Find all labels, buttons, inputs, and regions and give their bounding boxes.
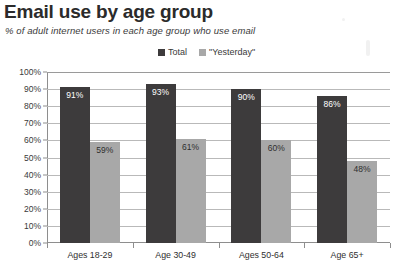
y-axis-tick-label: 100% [19, 67, 41, 77]
x-axis-tick-mark [47, 243, 48, 248]
scan-artifact [342, 18, 345, 21]
bar-total[interactable]: 93% [146, 84, 176, 243]
bar-value-label: 48% [347, 164, 377, 174]
x-axis-category-label: Age 65+ [304, 250, 390, 260]
bar-group: 90%60% [231, 72, 291, 243]
bar-value-label: 59% [90, 145, 120, 155]
bar-yesterday[interactable]: 48% [347, 161, 377, 243]
bar-groups: 91%59%93%61%90%60%86%48% [47, 72, 390, 243]
y-axis-tick-label: 40% [24, 170, 41, 180]
legend-label-yesterday: "Yesterday" [209, 47, 255, 57]
bar-value-label: 91% [60, 90, 90, 100]
y-axis-tick-label: 90% [24, 84, 41, 94]
legend-swatch-total-icon [158, 49, 165, 56]
chart-subtitle: % of adult internet users in each age gr… [5, 25, 255, 37]
y-axis-tick-label: 30% [24, 187, 41, 197]
x-axis-ticks [47, 243, 390, 249]
bar-group: 93%61% [146, 72, 206, 243]
chart-legend: Total "Yesterday" [158, 47, 255, 57]
bar-yesterday[interactable]: 59% [90, 142, 120, 243]
bar-yesterday[interactable]: 61% [176, 139, 206, 243]
bar-total[interactable]: 86% [317, 96, 347, 243]
legend-item-total: Total [158, 47, 187, 57]
bar-value-label: 61% [176, 142, 206, 152]
y-axis-tick-label: 80% [24, 101, 41, 111]
x-axis-labels: Ages 18-29Age 30-49Ages 50-64Age 65+ [47, 250, 390, 260]
y-axis-tick-label: 20% [24, 204, 41, 214]
chart-container: Email use by age group % of adult intern… [0, 0, 399, 272]
bar-value-label: 86% [317, 99, 347, 109]
scan-artifact [366, 40, 370, 56]
x-axis-tick-mark [219, 243, 220, 248]
plot-area: 100%90%80%70%60%50%40%30%20%10%0% 91%59%… [47, 72, 390, 243]
x-axis-tick-mark [304, 243, 305, 248]
y-axis-tick-label: 60% [24, 135, 41, 145]
y-axis-tick-label: 50% [24, 153, 41, 163]
bar-group: 86%48% [317, 72, 377, 243]
x-axis-tick-mark [133, 243, 134, 248]
legend-item-yesterday: "Yesterday" [199, 47, 255, 57]
chart-title: Email use by age group [4, 1, 213, 23]
y-axis-tick-label: 0% [29, 238, 41, 248]
bar-total[interactable]: 91% [60, 87, 90, 243]
y-axis-tick-label: 70% [24, 118, 41, 128]
legend-swatch-yesterday-icon [199, 49, 206, 56]
y-axis-tick-label: 10% [24, 221, 41, 231]
x-axis-category-label: Ages 50-64 [219, 250, 305, 260]
x-axis-category-label: Age 30-49 [133, 250, 219, 260]
bar-value-label: 93% [146, 87, 176, 97]
legend-label-total: Total [168, 47, 187, 57]
bar-total[interactable]: 90% [231, 89, 261, 243]
bar-yesterday[interactable]: 60% [261, 140, 291, 243]
bar-group: 91%59% [60, 72, 120, 243]
x-axis-category-label: Ages 18-29 [47, 250, 133, 260]
bar-value-label: 60% [261, 143, 291, 153]
bar-value-label: 90% [231, 92, 261, 102]
x-axis-tick-mark [390, 243, 391, 248]
